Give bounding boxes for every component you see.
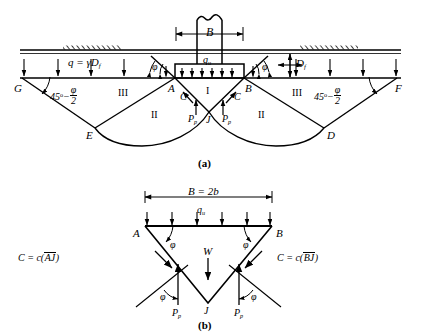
zone-II-right-label: II: [258, 110, 265, 120]
footing: [175, 64, 244, 78]
caption-b: (b): [198, 320, 211, 331]
zone-III-left-label: III: [118, 88, 128, 98]
weight-label: W: [203, 246, 212, 257]
surcharge-arrows-right: [296, 59, 396, 76]
cohesion-label-left-a: C: [180, 92, 187, 102]
bearing-pressure-label-b: qu: [197, 205, 205, 216]
surcharge-label: q = γDf: [68, 57, 101, 70]
point-F-label: F: [395, 83, 402, 94]
width-dimension-label-b: B = 2b: [188, 186, 219, 197]
point-J-label-b: J: [204, 306, 208, 316]
point-A-label-a: A: [168, 83, 175, 94]
point-A-label-b: A: [133, 228, 140, 239]
point-E-label: E: [86, 130, 93, 141]
point-G-label: G: [14, 83, 22, 94]
passive-pressure-label-left-b: Pp: [172, 308, 181, 319]
zone-III-right-label: III: [292, 88, 302, 98]
zone-II-left-label: II: [151, 110, 158, 120]
depth-label: Df: [296, 58, 306, 71]
overline-BJ: BJ: [303, 252, 315, 264]
cohesion-label-right-b: C = c(BJ): [277, 252, 318, 264]
passive-pressure-label-right-b: Pp: [234, 308, 243, 319]
cohesion-label-right-a: C: [234, 92, 241, 102]
rankine-angle-right: 45o−φ2: [314, 85, 341, 106]
point-D-label: D: [327, 130, 335, 141]
zone-I-label: I: [206, 86, 209, 96]
phi-over-2-right: φ2: [334, 85, 342, 106]
phi-label-top-left-b: φ: [170, 240, 176, 250]
phi-label-top-right-b: φ: [243, 240, 249, 250]
passive-pressure-label-right-a: Pp: [222, 114, 231, 125]
ground-hatch-left: [63, 46, 121, 50]
width-dimension-label-a: B: [206, 26, 213, 38]
phi-label-right-a: φ: [262, 62, 268, 72]
point-B-label-b: B: [276, 228, 283, 239]
cohesion-label-left-b: C = c(AJ): [18, 252, 59, 264]
phi-label-bottom-left-b: φ: [160, 292, 166, 302]
phi-label-bottom-right-b: φ: [251, 292, 257, 302]
overline-AJ: AJ: [44, 252, 56, 264]
ground-hatch-right: [300, 46, 358, 50]
caption-a: (a): [198, 158, 211, 169]
point-J-label-a: J: [206, 115, 210, 125]
rankine-angle-left: 45o−φ2: [50, 85, 77, 106]
phi-angle-marks-b-top: [166, 226, 251, 242]
phi-label-left-a: φ: [152, 62, 158, 72]
surcharge-arrows-near: [166, 66, 253, 77]
phi-over-2-left: φ2: [70, 85, 78, 106]
bearing-pressure-arrows-b: [147, 212, 270, 225]
passive-pressure-label-left-a: Pp: [188, 114, 197, 125]
point-B-label-a: B: [245, 83, 252, 94]
bearing-pressure-arrows: [182, 68, 232, 77]
bearing-pressure-label-a: qu: [203, 55, 211, 66]
